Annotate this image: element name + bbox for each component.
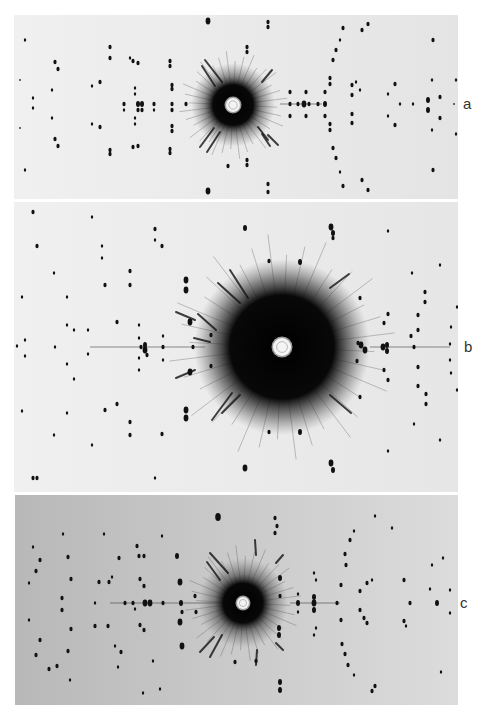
diffraction-panel-a <box>14 15 458 199</box>
panel-label-a: a <box>463 96 471 111</box>
panel-label-b: b <box>464 339 472 354</box>
panel-label-c: c <box>460 595 468 610</box>
diffraction-panel-b <box>14 202 458 492</box>
diffraction-panel-c <box>15 495 458 705</box>
